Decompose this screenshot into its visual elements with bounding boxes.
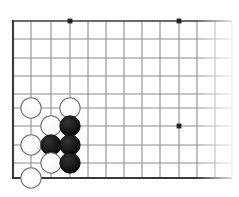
white-stone-c8 <box>21 98 41 118</box>
white-stone <box>21 98 41 118</box>
white-stone <box>21 168 41 188</box>
white-stone <box>60 98 80 118</box>
white-stone <box>21 135 41 155</box>
right-edge-fade <box>196 0 239 197</box>
white-stone-d7 <box>41 116 61 136</box>
black-stone-e6 <box>60 135 80 155</box>
star-point-top-left <box>68 19 73 24</box>
go-board-diagram <box>0 0 239 197</box>
go-board-canvas <box>0 0 239 197</box>
white-stone-c6 <box>21 135 41 155</box>
white-stone <box>41 116 61 136</box>
black-stone-d6 <box>41 135 61 155</box>
star-point-top-right <box>177 19 182 24</box>
white-stone-d5 <box>41 153 61 173</box>
black-stone <box>60 135 80 155</box>
black-stone <box>60 116 80 136</box>
star-point-mid-right <box>177 124 182 129</box>
white-stone-c4 <box>21 168 41 188</box>
black-stone-e7 <box>60 116 80 136</box>
white-stone <box>41 153 61 173</box>
black-stone <box>60 153 80 173</box>
black-stone-e5 <box>60 153 80 173</box>
black-stone <box>41 135 61 155</box>
white-stone-e8 <box>60 98 80 118</box>
